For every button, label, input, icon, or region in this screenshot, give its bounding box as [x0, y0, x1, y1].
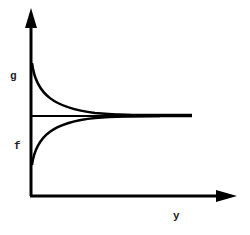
- diagram-canvas: g f y: [0, 0, 250, 235]
- curve-f: [32, 116, 160, 165]
- y-axis-arrow-icon: [25, 8, 37, 28]
- label-f: f: [14, 141, 21, 152]
- label-g: g: [10, 71, 17, 82]
- x-axis-arrow-icon: [216, 190, 237, 202]
- label-x-axis: y: [173, 211, 180, 222]
- curve-g: [32, 63, 160, 116]
